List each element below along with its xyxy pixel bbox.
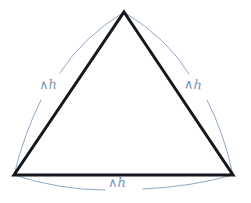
- arc-label-bottom: ∧h: [108, 176, 126, 189]
- arc-left-lower-segment: [14, 100, 41, 175]
- arc-right-lower-segment: [207, 100, 233, 175]
- arc-group: [14, 12, 233, 190]
- arc-label-right: ∧h: [184, 77, 203, 91]
- figure-canvas: ∧h ∧h ∧h: [0, 0, 251, 203]
- arc-left-upper-segment: [60, 12, 124, 73]
- arc-label-left: ∧h: [39, 77, 58, 91]
- arc-bottom-right-segment: [143, 175, 233, 189]
- geometry-diagram-svg: [0, 0, 251, 203]
- arc-bottom-left-segment: [14, 175, 105, 190]
- triangle-outline: [14, 12, 233, 175]
- arc-right-upper-segment: [124, 12, 189, 74]
